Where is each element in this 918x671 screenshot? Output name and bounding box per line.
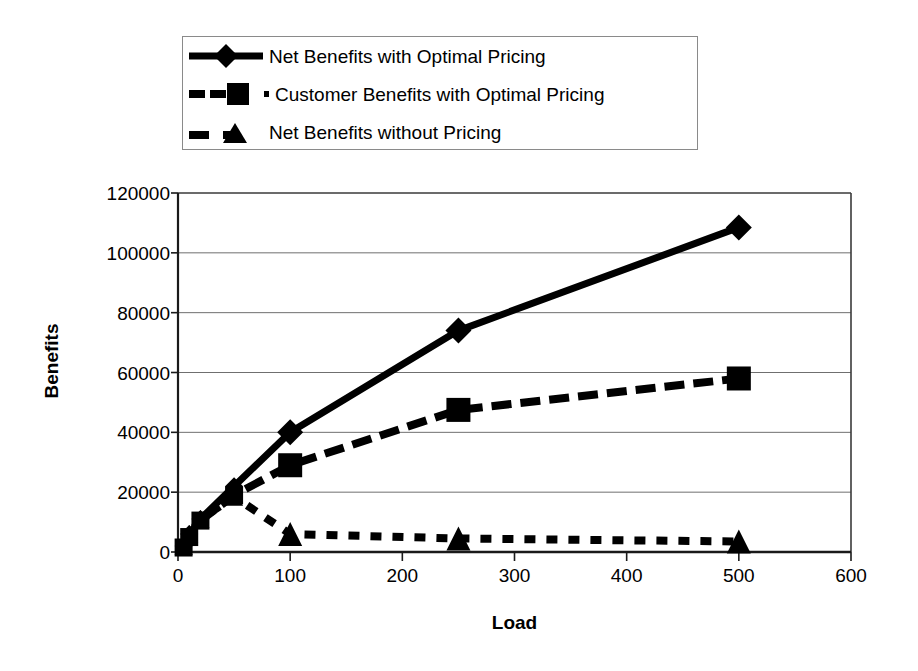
legend-key-square-dashed — [183, 75, 269, 113]
y-tick-label-20000: 20000 — [50, 483, 170, 502]
marker-triangle-2-4 — [278, 522, 302, 546]
legend-label-2: Net Benefits without Pricing — [269, 123, 501, 142]
x-tick-label-300: 300 — [475, 566, 555, 585]
y-tick-label-0: 0 — [50, 543, 170, 562]
y-tick-label-60000: 60000 — [50, 364, 170, 383]
legend-label-0: Net Benefits with Optimal Pricing — [269, 47, 546, 66]
y-tick-label-80000: 80000 — [50, 304, 170, 323]
legend-key-diamond-solid — [183, 37, 269, 75]
series-line-0 — [184, 227, 739, 546]
marker-diamond-0-6 — [726, 214, 752, 240]
legend-entry-net-benefits-with-optimal-pricing: Net Benefits with Optimal Pricing — [183, 37, 697, 75]
legend-entry-customer-benefits-with-optimal-pricing: Customer Benefits with Optimal Pricing — [183, 75, 697, 113]
chart-figure: Benefits Load 02000040000600008000010000… — [0, 0, 918, 671]
y-tick-label-100000: 100000 — [50, 244, 170, 263]
x-tick-label-600: 600 — [811, 566, 891, 585]
x-axis-title: Load — [178, 612, 851, 634]
chart-legend: Net Benefits with Optimal Pricing Custom… — [182, 36, 698, 150]
x-tick-label-0: 0 — [138, 566, 218, 585]
marker-square-1-6 — [727, 366, 751, 390]
x-tick-label-100: 100 — [250, 566, 330, 585]
legend-entry-net-benefits-without-pricing: Net Benefits without Pricing — [183, 113, 697, 151]
marker-square-1-4 — [278, 453, 302, 477]
legend-label-1: Customer Benefits with Optimal Pricing — [269, 85, 604, 104]
x-tick-label-200: 200 — [362, 566, 442, 585]
x-tick-label-400: 400 — [587, 566, 667, 585]
marker-square-1-5 — [446, 398, 470, 422]
y-tick-label-120000: 120000 — [50, 184, 170, 203]
legend-key-triangle-dotted — [183, 113, 269, 151]
x-tick-label-500: 500 — [699, 566, 779, 585]
y-tick-label-40000: 40000 — [50, 423, 170, 442]
